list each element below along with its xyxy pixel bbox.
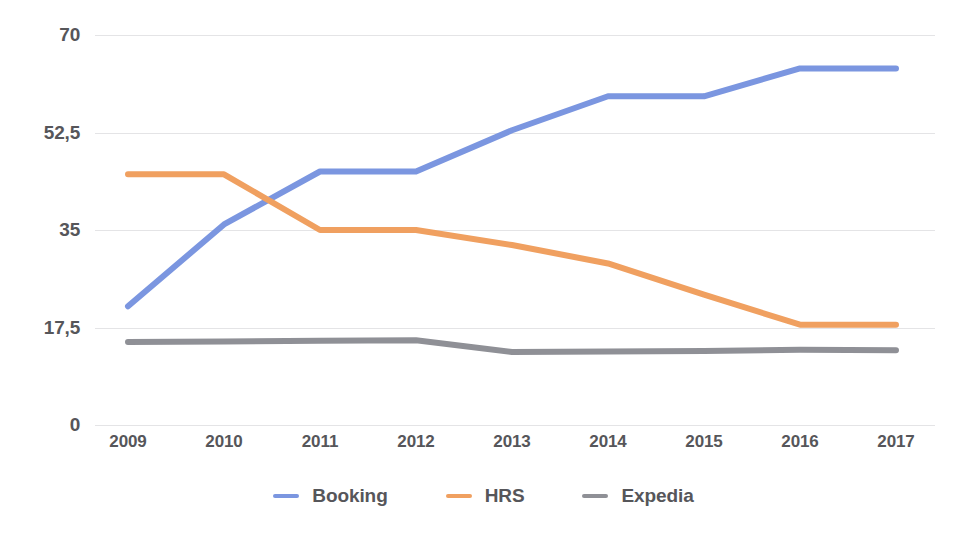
y-axis: 70 52,5 35 17,5 0 bbox=[8, 35, 80, 425]
line-chart: 70 52,5 35 17,5 0 2009 2010 2011 2012 20… bbox=[0, 0, 967, 537]
legend-label-hrs: HRS bbox=[485, 485, 525, 507]
chart-legend: Booking HRS Expedia bbox=[0, 485, 967, 507]
legend-swatch-booking-icon bbox=[273, 494, 299, 498]
x-tick-label-2011: 2011 bbox=[302, 432, 338, 452]
x-tick-label-2017: 2017 bbox=[877, 432, 914, 452]
gridline-52-5 bbox=[95, 133, 935, 134]
y-tick-label-52-5: 52,5 bbox=[10, 122, 80, 144]
legend-swatch-expedia-icon bbox=[582, 494, 608, 498]
legend-swatch-hrs-icon bbox=[446, 494, 472, 498]
legend-item-booking[interactable]: Booking bbox=[273, 485, 387, 507]
gridline-70 bbox=[95, 35, 935, 36]
gridline-35 bbox=[95, 230, 935, 231]
x-tick-label-2012: 2012 bbox=[397, 432, 434, 452]
legend-item-expedia[interactable]: Expedia bbox=[582, 485, 693, 507]
legend-item-hrs[interactable]: HRS bbox=[446, 485, 525, 507]
y-tick-label-17-5: 17,5 bbox=[10, 317, 80, 339]
y-tick-label-35: 35 bbox=[10, 219, 80, 241]
y-tick-label-0: 0 bbox=[10, 414, 80, 436]
x-tick-label-2016: 2016 bbox=[781, 432, 818, 452]
x-tick-label-2015: 2015 bbox=[685, 432, 722, 452]
plot-area bbox=[95, 35, 935, 425]
x-tick-label-2009: 2009 bbox=[109, 432, 146, 452]
y-tick-label-70: 70 bbox=[10, 24, 80, 46]
legend-label-booking: Booking bbox=[312, 485, 387, 507]
x-tick-label-2010: 2010 bbox=[205, 432, 242, 452]
gridline-17-5 bbox=[95, 328, 935, 329]
x-tick-label-2013: 2013 bbox=[493, 432, 530, 452]
x-tick-label-2014: 2014 bbox=[589, 432, 626, 452]
legend-label-expedia: Expedia bbox=[621, 485, 693, 507]
gridline-0 bbox=[95, 425, 935, 426]
x-axis: 2009 2010 2011 2012 2013 2014 2015 2016 … bbox=[95, 432, 935, 462]
